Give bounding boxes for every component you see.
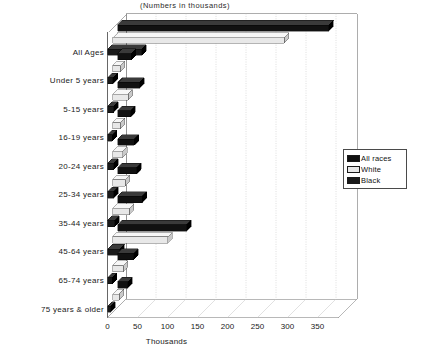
x-axis-title: Thousands bbox=[0, 337, 421, 346]
x-tick-label: 50 bbox=[133, 322, 142, 331]
x-tick-label: 100 bbox=[161, 322, 174, 331]
legend-label-black: Black bbox=[361, 176, 380, 185]
legend-swatch-white bbox=[347, 166, 360, 173]
x-tick-label: 300 bbox=[281, 322, 294, 331]
legend-swatch-black bbox=[347, 177, 360, 184]
legend-item-all-races: All races bbox=[347, 153, 403, 163]
legend-item-white: White bbox=[347, 164, 403, 174]
x-tick-label: 250 bbox=[251, 322, 264, 331]
legend-swatch-all-races bbox=[347, 155, 360, 162]
x-tick-label: 0 bbox=[105, 322, 109, 331]
chart-legend: All races White Black bbox=[343, 149, 407, 189]
x-tick-label: 200 bbox=[221, 322, 234, 331]
x-tick-label: 150 bbox=[191, 322, 204, 331]
legend-label-all-races: All races bbox=[361, 154, 392, 163]
legend-label-white: White bbox=[361, 165, 381, 174]
legend-item-black: Black bbox=[347, 175, 403, 185]
x-tick-label: 350 bbox=[311, 322, 324, 331]
chart-figure: (Numbers in thousands) All AgesUnder 5 y… bbox=[0, 0, 421, 358]
x-axis-title-text: Thousands bbox=[146, 337, 187, 346]
